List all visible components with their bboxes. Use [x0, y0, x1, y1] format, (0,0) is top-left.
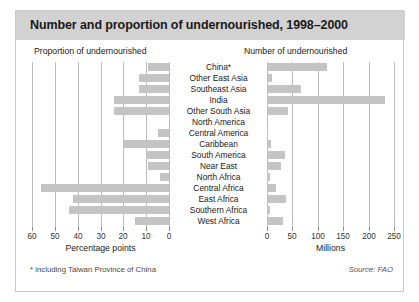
panel-heading-proportion: Proportion of undernourished: [34, 46, 147, 56]
bar-row: [267, 183, 394, 194]
bar: [267, 217, 283, 225]
bar-row: [32, 62, 169, 73]
panel-heading-number: Number of undernourished: [244, 46, 347, 56]
category-label: Caribbean: [171, 139, 266, 149]
bar-row: [32, 128, 169, 139]
bar-row: [32, 194, 169, 205]
axis-tick-label: 60: [27, 232, 36, 241]
axis-tick: [343, 227, 344, 231]
bar: [267, 85, 301, 93]
category-label: Central Africa: [171, 183, 266, 193]
bar: [135, 217, 169, 225]
bar-row: [267, 172, 394, 183]
source-credit: Source: FAO: [349, 265, 394, 274]
bar: [146, 151, 169, 159]
gridline: [169, 62, 170, 227]
left-axis-panel: 6050403020100Percentage points: [32, 62, 169, 227]
bar: [267, 173, 270, 181]
bar: [148, 63, 169, 71]
axis-tick: [55, 227, 56, 231]
bar-row: [32, 172, 169, 183]
bar: [267, 63, 327, 71]
bar-row: [32, 139, 169, 150]
category-label: Near East: [171, 161, 266, 171]
axis-tick-label: 250: [387, 232, 401, 241]
bar-row: [267, 95, 394, 106]
axis-tick: [146, 227, 147, 231]
bar: [267, 206, 270, 214]
bar-row: [32, 216, 169, 227]
axis-tick: [169, 227, 170, 231]
axis-tick: [318, 227, 319, 231]
bar: [114, 107, 169, 115]
axis-tick: [394, 227, 395, 231]
bar-row: [32, 161, 169, 172]
axis-tick-label: 0: [265, 232, 270, 241]
right-axis-panel: 050100150200250Millions: [267, 62, 394, 227]
bar-row: [267, 205, 394, 216]
category-label: East Africa: [171, 194, 266, 204]
category-label: Central America: [171, 128, 266, 138]
bar-row: [267, 62, 394, 73]
bar-row: [267, 150, 394, 161]
bar: [114, 96, 169, 104]
bar-row: [32, 106, 169, 117]
bar-row: [267, 84, 394, 95]
bar-row: [32, 205, 169, 216]
bar-row: [267, 216, 394, 227]
axis-tick: [369, 227, 370, 231]
axis-tick-label: 20: [118, 232, 127, 241]
category-label: South America: [171, 150, 266, 160]
axis-tick-label: 10: [141, 232, 150, 241]
bar-row: [32, 84, 169, 95]
axis-tick-label: 150: [336, 232, 350, 241]
bar-row: [267, 194, 394, 205]
chart-figure: Number and proportion of undernourished,…: [15, 10, 404, 292]
axis-tick-label: 50: [287, 232, 296, 241]
axis-tick-label: 0: [167, 232, 172, 241]
bar: [267, 151, 285, 159]
bar: [267, 162, 281, 170]
bar: [267, 140, 271, 148]
axis-tick: [292, 227, 293, 231]
bar: [148, 162, 169, 170]
category-label: West Africa: [171, 216, 266, 226]
category-label: Other South Asia: [171, 106, 266, 116]
bar-row: [32, 95, 169, 106]
bar: [267, 107, 288, 115]
bar-row: [267, 73, 394, 84]
title-banner: Number and proportion of undernourished,…: [16, 11, 405, 40]
axis-tick-label: 100: [311, 232, 325, 241]
bar: [267, 195, 286, 203]
category-label: North America: [171, 117, 266, 127]
axis-tick-label: 200: [362, 232, 376, 241]
bar: [267, 74, 272, 82]
bar: [139, 85, 169, 93]
bar-row: [32, 150, 169, 161]
category-label: Southern Africa: [171, 205, 266, 215]
bar: [158, 129, 169, 137]
category-label-column: China*Other East AsiaSoutheast AsiaIndia…: [171, 62, 266, 227]
axis-tick-label: 30: [96, 232, 105, 241]
axis-tick-label: 40: [73, 232, 82, 241]
bar-row: [267, 117, 394, 128]
footnote-text: * including Taiwan Province of China: [30, 265, 156, 274]
axis-tick-label: 50: [50, 232, 59, 241]
bar: [139, 74, 169, 82]
category-label: China*: [171, 62, 266, 72]
axis-label-right: Millions: [316, 243, 345, 253]
bar-row: [267, 139, 394, 150]
axis-tick: [32, 227, 33, 231]
axis-label-left: Percentage points: [65, 243, 135, 253]
category-label: India: [171, 95, 266, 105]
axis-tick: [101, 227, 102, 231]
bar: [41, 184, 169, 192]
bar: [160, 173, 169, 181]
bar: [267, 96, 385, 104]
plot-area: Proportion of undernourished Number of u…: [16, 40, 405, 262]
axis-tick: [267, 227, 268, 231]
bar-row: [267, 161, 394, 172]
bar: [267, 129, 268, 137]
bar-row: [32, 117, 169, 128]
category-label: Other East Asia: [171, 73, 266, 83]
